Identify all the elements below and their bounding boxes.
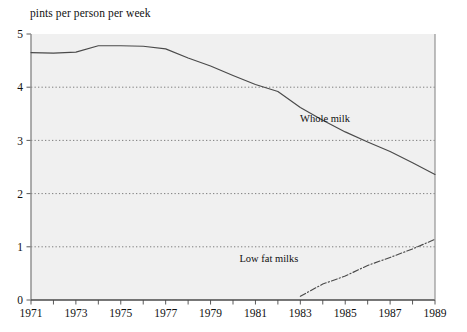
x-tick-label-1985: 1985 [334, 307, 357, 319]
series-label-whole-milk: Whole milk [300, 113, 351, 124]
y-tick-label-4: 4 [17, 81, 23, 93]
x-tick-label-1983: 1983 [289, 307, 312, 319]
y-tick-label-0: 0 [17, 294, 23, 306]
plot-background [31, 34, 435, 300]
x-tick-label-1977: 1977 [154, 307, 177, 319]
x-tick-label-1987: 1987 [379, 307, 402, 319]
chart-container: pints per person per week 19711973197519… [0, 0, 467, 332]
x-tick-label-1981: 1981 [244, 307, 267, 319]
x-tick-label-1975: 1975 [109, 307, 132, 319]
y-tick-label-3: 3 [17, 135, 23, 147]
x-tick-label-1989: 1989 [424, 307, 447, 319]
x-tick-label-1971: 1971 [20, 307, 43, 319]
x-axis-tick-labels: 1971197319751977197919811983198519871989 [20, 307, 447, 319]
series-label-low-fat-milks: Low fat milks [239, 253, 298, 264]
line-chart-plot: 1971197319751977197919811983198519871989… [0, 0, 467, 332]
y-tick-label-2: 2 [17, 188, 23, 200]
y-tick-label-5: 5 [17, 28, 23, 40]
y-axis-tick-labels: 012345 [17, 28, 23, 306]
x-tick-label-1979: 1979 [199, 307, 222, 319]
x-tick-label-1973: 1973 [64, 307, 87, 319]
y-tick-label-1: 1 [17, 241, 23, 253]
